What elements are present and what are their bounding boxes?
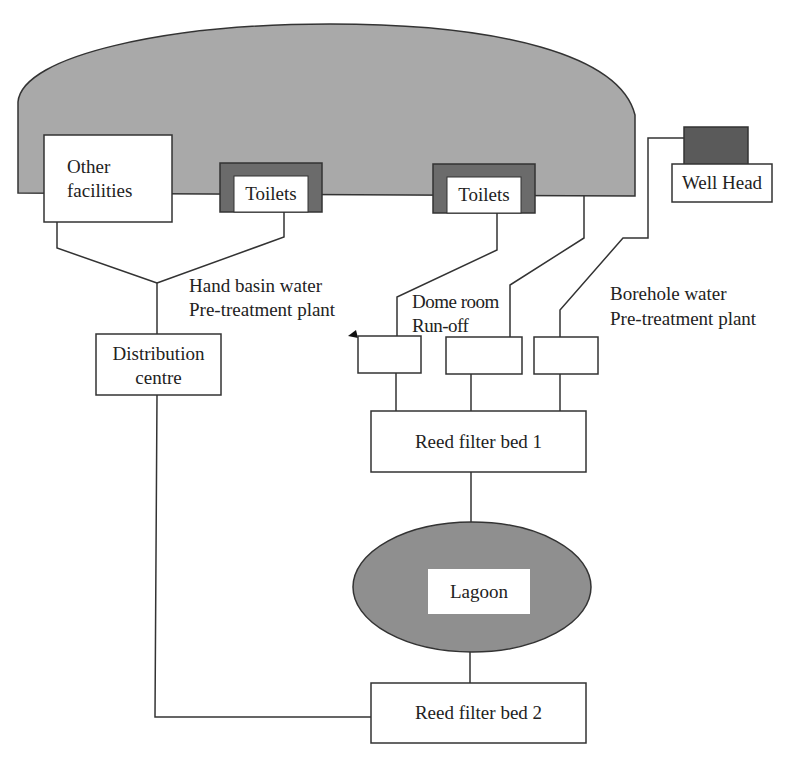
hand-basin-label-1: Hand basin water — [189, 274, 322, 297]
pipe-toilets-1 — [157, 212, 284, 283]
dome-runoff-label-2: Run-off — [412, 314, 468, 337]
toilets-2-label: Toilets — [447, 183, 521, 206]
toilets-1-label: Toilets — [234, 182, 308, 205]
reed-filter-bed-1-label: Reed filter bed 1 — [371, 430, 586, 453]
well-head-cap — [684, 127, 748, 165]
hand-basin-plant-box — [358, 336, 421, 373]
pipe-dome-runoff — [510, 196, 584, 337]
borehole-label-2: Pre-treatment plant — [610, 307, 756, 330]
borehole-plant-box — [534, 337, 598, 374]
dome-runoff-box — [446, 337, 522, 374]
pipe-other-facilities — [57, 222, 157, 283]
other-facilities-label-2: facilities — [67, 179, 132, 202]
dome-runoff-label-1: Dome room — [412, 290, 499, 313]
well-head-label: Well Head — [672, 171, 772, 194]
arrow-head-icon — [348, 330, 358, 338]
distribution-centre-label-1: Distribution — [96, 342, 221, 365]
hand-basin-label-2: Pre-treatment plant — [189, 298, 335, 321]
pipe-distribution-to-reed-bed-2 — [155, 395, 371, 717]
borehole-label-1: Borehole water — [610, 282, 727, 305]
reed-filter-bed-2-label: Reed filter bed 2 — [371, 701, 586, 724]
distribution-centre-label-2: centre — [96, 366, 221, 389]
lagoon-label: Lagoon — [428, 580, 530, 603]
other-facilities-label-1: Other — [67, 155, 110, 178]
